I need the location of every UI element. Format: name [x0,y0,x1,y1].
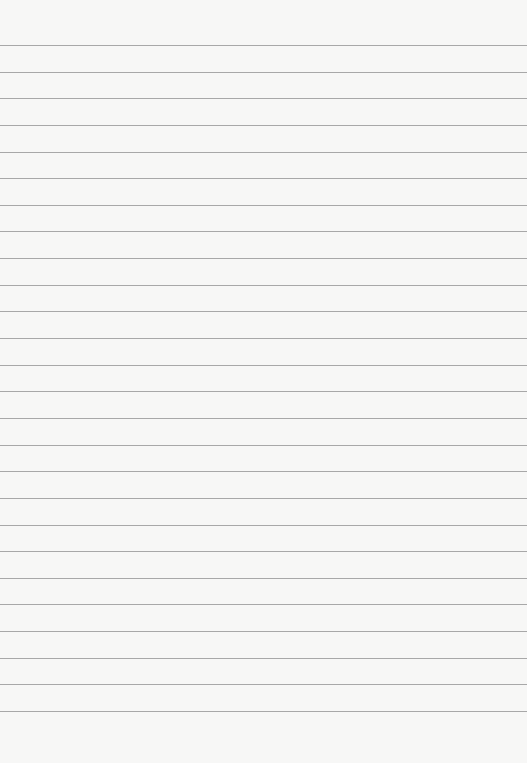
ruled-line [0,311,527,312]
ruled-line [0,391,527,392]
ruled-line [0,98,527,99]
ruled-line [0,711,527,712]
ruled-line [0,178,527,179]
ruled-line [0,152,527,153]
ruled-line [0,471,527,472]
ruled-line [0,231,527,232]
ruled-line [0,338,527,339]
ruled-line [0,205,527,206]
ruled-line [0,418,527,419]
ruled-line [0,72,527,73]
ruled-line [0,45,527,46]
ruled-line [0,578,527,579]
ruled-line [0,551,527,552]
ruled-line [0,684,527,685]
lined-paper-sheet [0,0,527,763]
ruled-line [0,525,527,526]
ruled-line [0,498,527,499]
ruled-line [0,365,527,366]
ruled-line [0,285,527,286]
ruled-line [0,604,527,605]
ruled-line [0,258,527,259]
ruled-line [0,658,527,659]
ruled-line [0,125,527,126]
ruled-line [0,631,527,632]
ruled-line [0,445,527,446]
